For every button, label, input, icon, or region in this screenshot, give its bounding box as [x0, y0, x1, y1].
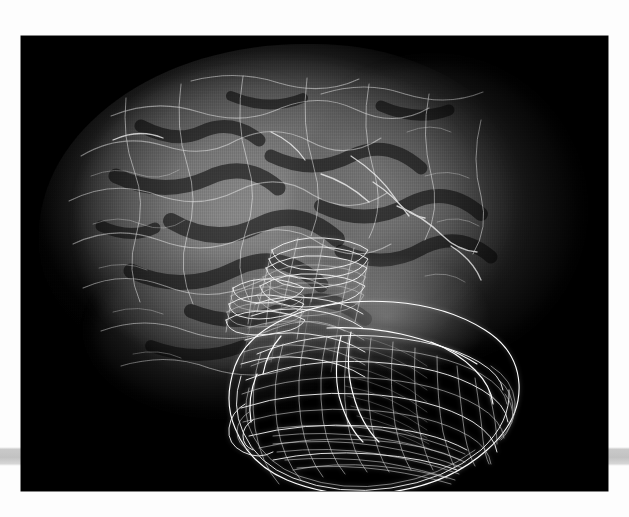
wireframe-right-tail — [491, 366, 515, 440]
scan-artifact-bar-right — [606, 447, 629, 466]
wireframe-mesh — [21, 36, 608, 491]
render-frame — [21, 36, 608, 491]
wireframe-contour-stack — [226, 238, 368, 339]
render-canvas — [21, 36, 608, 491]
